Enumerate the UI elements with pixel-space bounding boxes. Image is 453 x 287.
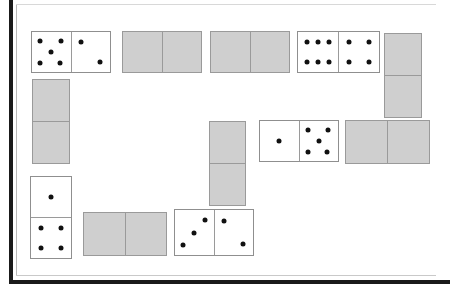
pip-dot xyxy=(59,246,64,251)
domino-facedown-top-1-half-b xyxy=(162,32,202,72)
pip-dot xyxy=(203,217,208,222)
domino-facedown-middle-vertical-half-a xyxy=(210,122,245,163)
pip-dot xyxy=(241,241,246,246)
pip-dot xyxy=(39,246,44,251)
domino-facedown-left-vertical-half-b xyxy=(33,121,69,163)
pip-dot xyxy=(39,226,44,231)
domino-3-2[interactable] xyxy=(174,209,254,256)
domino-facedown-top-2-half-b xyxy=(250,32,290,72)
domino-facedown-bottom-1[interactable] xyxy=(83,212,167,256)
pip-dot xyxy=(79,40,84,45)
pip-dot xyxy=(304,40,309,45)
board-inner-bottom-line xyxy=(16,275,436,276)
domino-1-5-half-a xyxy=(260,121,299,161)
domino-facedown-bottom-1-half-b xyxy=(125,213,167,255)
domino-facedown-left-vertical-half-a xyxy=(33,80,69,121)
domino-1-4[interactable] xyxy=(30,176,72,259)
domino-facedown-top-2[interactable] xyxy=(210,31,290,73)
domino-facedown-middle-vertical[interactable] xyxy=(209,121,246,206)
pip-dot xyxy=(49,50,54,55)
pip-dot xyxy=(326,127,331,132)
domino-5-2-half-a xyxy=(32,32,71,72)
pip-dot xyxy=(305,150,310,155)
pip-dot xyxy=(316,139,321,144)
domino-5-2-half-b xyxy=(71,32,111,72)
pip-dot xyxy=(316,40,321,45)
domino-facedown-right-vertical[interactable] xyxy=(384,33,422,118)
domino-facedown-right-vertical-half-b xyxy=(385,75,421,117)
pip-dot xyxy=(49,195,54,200)
pip-dot xyxy=(222,219,227,224)
domino-1-5[interactable] xyxy=(259,120,339,162)
domino-5-2[interactable] xyxy=(31,31,111,73)
pip-dot xyxy=(347,60,352,65)
pip-dot xyxy=(98,60,103,65)
pip-dot xyxy=(59,226,64,231)
pip-dot xyxy=(316,60,321,65)
domino-3-2-half-b xyxy=(214,210,254,255)
domino-facedown-left-vertical[interactable] xyxy=(32,79,70,164)
domino-6-4-half-a xyxy=(298,32,338,72)
domino-facedown-right-middle-half-a xyxy=(346,121,387,163)
dominoes-board xyxy=(0,0,453,287)
domino-3-2-half-a xyxy=(175,210,214,255)
pip-dot xyxy=(57,61,62,66)
pip-dot xyxy=(327,40,332,45)
domino-facedown-bottom-1-half-a xyxy=(84,213,125,255)
pip-dot xyxy=(58,38,63,43)
board-frame-left-edge xyxy=(9,0,13,282)
domino-1-5-half-b xyxy=(299,121,339,161)
domino-facedown-top-1[interactable] xyxy=(122,31,202,73)
pip-dot xyxy=(277,139,282,144)
domino-1-4-half-b xyxy=(31,217,71,258)
pip-dot xyxy=(304,60,309,65)
pip-dot xyxy=(347,40,352,45)
domino-6-4-half-b xyxy=(338,32,379,72)
domino-facedown-right-middle[interactable] xyxy=(345,120,430,164)
pip-dot xyxy=(181,243,186,248)
pip-dot xyxy=(367,60,372,65)
pip-dot xyxy=(305,127,310,132)
pip-dot xyxy=(38,61,43,66)
board-frame-bottom-edge xyxy=(9,280,450,284)
pip-dot xyxy=(327,60,332,65)
domino-facedown-middle-vertical-half-b xyxy=(210,163,245,205)
pip-dot xyxy=(192,230,197,235)
domino-facedown-top-1-half-a xyxy=(123,32,162,72)
domino-facedown-top-2-half-a xyxy=(211,32,250,72)
domino-facedown-right-middle-half-b xyxy=(387,121,429,163)
domino-1-4-half-a xyxy=(31,177,71,217)
pip-dot xyxy=(38,38,43,43)
pip-dot xyxy=(325,150,330,155)
pip-dot xyxy=(367,40,372,45)
domino-facedown-right-vertical-half-a xyxy=(385,34,421,75)
domino-6-4[interactable] xyxy=(297,31,380,73)
board-inner-top-line xyxy=(16,4,436,5)
board-inner-left-line xyxy=(16,4,17,276)
